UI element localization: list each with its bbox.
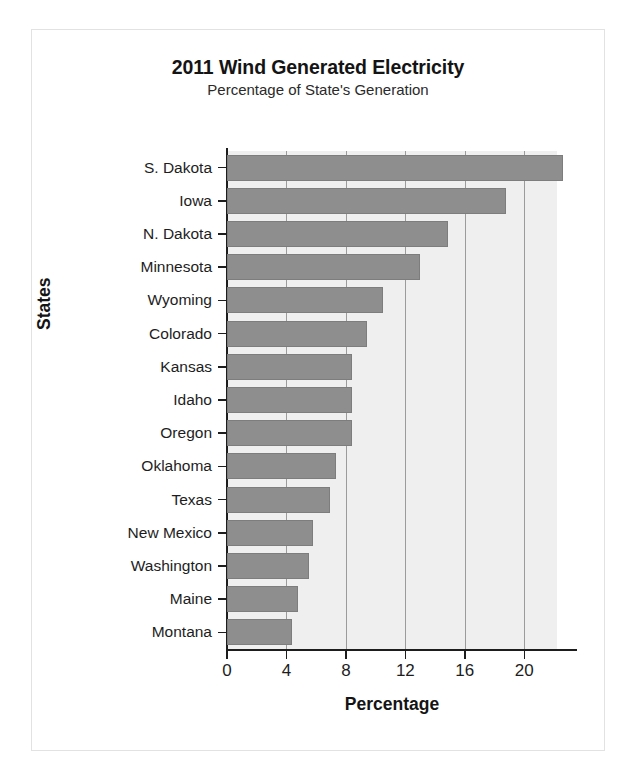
y-tick-mark	[218, 598, 227, 600]
bar	[227, 553, 309, 579]
x-tick-mark	[524, 650, 526, 659]
y-tick-label: S. Dakota	[144, 160, 212, 176]
bar-fill	[227, 619, 292, 645]
bar-fill	[227, 287, 383, 313]
bar	[227, 287, 383, 313]
y-axis-title: States	[34, 277, 55, 330]
gridline	[524, 151, 525, 649]
x-tick-label: 4	[266, 662, 306, 679]
bar-fill	[227, 553, 309, 579]
x-tick-mark	[405, 650, 407, 659]
bar	[227, 321, 367, 347]
bar-fill	[227, 221, 448, 247]
chart-title-block: 2011 Wind Generated Electricity Percenta…	[32, 56, 604, 99]
y-tick-label: Oregon	[160, 425, 212, 441]
x-tick-label: 8	[326, 662, 366, 679]
x-tick-label: 20	[504, 662, 544, 679]
bar-fill	[227, 188, 506, 214]
x-axis-title: Percentage	[227, 694, 557, 715]
bar	[227, 354, 352, 380]
y-tick-mark	[218, 565, 227, 567]
y-tick-label: Minnesota	[140, 259, 212, 275]
bar	[227, 420, 352, 446]
bar-fill	[227, 155, 563, 181]
y-tick-label: Oklahoma	[141, 458, 212, 474]
y-tick-mark	[218, 266, 227, 268]
gridline	[465, 151, 466, 649]
bar	[227, 487, 330, 513]
bar	[227, 586, 298, 612]
y-tick-mark	[218, 466, 227, 468]
bar-fill	[227, 354, 352, 380]
x-tick-mark	[345, 650, 347, 659]
bar	[227, 520, 313, 546]
y-tick-mark	[218, 333, 227, 335]
y-tick-label: N. Dakota	[143, 226, 212, 242]
page-title: 2011 Wind Generated Electricity	[32, 56, 604, 78]
y-tick-label: Montana	[152, 624, 212, 640]
bar	[227, 254, 420, 280]
bar-fill	[227, 586, 298, 612]
chart-figure: 2011 Wind Generated Electricity Percenta…	[31, 29, 605, 751]
bar-fill	[227, 387, 352, 413]
x-tick-label: 16	[445, 662, 485, 679]
bar-fill	[227, 321, 367, 347]
y-tick-mark	[218, 233, 227, 235]
y-tick-label: Colorado	[149, 326, 212, 342]
bar	[227, 221, 448, 247]
y-tick-label: Texas	[172, 492, 213, 508]
y-tick-mark	[218, 167, 227, 169]
y-tick-mark	[218, 200, 227, 202]
x-tick-mark	[464, 650, 466, 659]
bar-fill	[227, 487, 330, 513]
bar-fill	[227, 453, 336, 479]
y-tick-mark	[218, 399, 227, 401]
y-tick-mark	[218, 366, 227, 368]
bar	[227, 619, 292, 645]
chart-subtitle: Percentage of State's Generation	[32, 81, 604, 98]
bar-fill	[227, 420, 352, 446]
y-tick-mark	[218, 632, 227, 634]
x-tick-label: 0	[207, 662, 247, 679]
y-tick-mark	[218, 432, 227, 434]
y-tick-label: Washington	[131, 558, 212, 574]
bar	[227, 155, 563, 181]
bar-fill	[227, 254, 420, 280]
bar	[227, 387, 352, 413]
y-tick-label: New Mexico	[128, 525, 212, 541]
bar	[227, 453, 336, 479]
y-tick-label: Iowa	[179, 193, 212, 209]
x-tick-mark	[226, 650, 228, 659]
y-tick-mark	[218, 532, 227, 534]
x-tick-label: 12	[385, 662, 425, 679]
y-tick-mark	[218, 499, 227, 501]
y-tick-label: Wyoming	[148, 292, 212, 308]
y-tick-label: Maine	[170, 591, 212, 607]
bar	[227, 188, 506, 214]
y-tick-label: Idaho	[173, 392, 212, 408]
y-tick-mark	[218, 300, 227, 302]
y-tick-label: Kansas	[160, 359, 212, 375]
x-tick-mark	[286, 650, 288, 659]
bar-fill	[227, 520, 313, 546]
